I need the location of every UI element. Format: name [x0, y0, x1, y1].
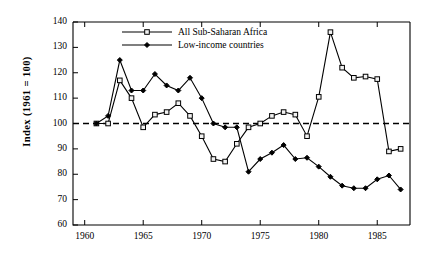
data-point-marker — [328, 30, 333, 35]
legend-sample-marker-1 — [145, 43, 150, 48]
y-tick-label: 100 — [41, 118, 67, 128]
data-point-marker — [117, 58, 122, 63]
legend-sample-marker-0 — [145, 30, 150, 35]
data-point-marker — [340, 65, 345, 70]
y-axis-label: Index (1961 = 100) — [21, 32, 32, 172]
data-point-marker — [258, 121, 263, 126]
data-point-marker — [293, 112, 298, 117]
y-tick-label: 130 — [41, 41, 67, 51]
x-tick-label: 1975 — [240, 231, 280, 241]
y-tick-label: 110 — [41, 92, 67, 102]
data-point-marker — [305, 134, 310, 139]
data-point-marker — [375, 77, 380, 82]
data-point-marker — [246, 125, 251, 130]
data-point-marker — [387, 149, 392, 154]
data-point-marker — [270, 114, 275, 119]
data-point-marker — [199, 96, 204, 101]
x-tick-label: 1980 — [299, 231, 339, 241]
data-point-marker — [351, 186, 356, 191]
data-point-marker — [352, 76, 357, 81]
data-point-marker — [234, 125, 239, 130]
data-point-marker — [398, 147, 403, 152]
data-point-marker — [118, 78, 123, 83]
data-point-marker — [223, 125, 228, 130]
chart-figure: Index (1961 = 100) 607080901001101201301… — [0, 0, 444, 263]
x-tick-label: 1985 — [357, 231, 397, 241]
data-point-marker — [129, 88, 134, 93]
y-tick-label: 140 — [41, 16, 67, 26]
y-tick-label: 90 — [41, 143, 67, 153]
x-tick-label: 1970 — [182, 231, 222, 241]
data-point-marker — [176, 101, 181, 106]
data-point-marker — [188, 114, 193, 119]
data-point-marker — [164, 110, 169, 115]
data-point-marker — [281, 110, 286, 115]
y-tick-label: 80 — [41, 168, 67, 178]
data-point-marker — [153, 112, 158, 117]
y-tick-label: 70 — [41, 194, 67, 204]
data-point-marker — [235, 142, 240, 147]
y-tick-label: 120 — [41, 67, 67, 77]
legend-label-series-0: All Sub-Saharan Africa — [178, 27, 267, 37]
series-line-0 — [96, 32, 400, 161]
y-tick-label: 60 — [41, 219, 67, 229]
x-tick-label: 1960 — [65, 231, 105, 241]
data-point-marker — [363, 74, 368, 79]
data-point-marker — [211, 121, 216, 126]
data-point-marker — [106, 121, 111, 126]
data-point-marker — [211, 157, 216, 162]
data-point-marker — [129, 96, 134, 101]
data-point-marker — [199, 134, 204, 139]
legend-label-series-1: Low-income countries — [178, 40, 264, 50]
data-point-marker — [316, 95, 321, 100]
data-point-marker — [223, 159, 228, 164]
x-tick-label: 1965 — [123, 231, 163, 241]
data-point-marker — [141, 125, 146, 130]
